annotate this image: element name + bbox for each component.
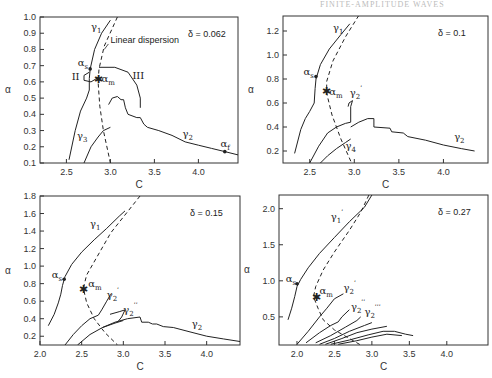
y-tick-label: 0.8 [266,74,279,84]
annotation-label: αm [329,86,343,100]
annotation-label: γ1ʹ [331,209,343,225]
y-tick-label: 0.8 [23,279,36,289]
annotation-label: γ3 [77,130,87,144]
y-axis-label: α [244,264,250,275]
marker-αs [88,67,92,71]
x-axis-label: C [380,361,387,372]
plot-frame [279,195,488,345]
annotation-label: γ2ʹʹ [123,302,137,318]
y-tick-label: 0.9 [23,28,36,38]
delta-label: δ = 0.062 [188,29,226,39]
annotation-label: αs [52,269,63,283]
curve-γ1 [69,20,110,160]
y-tick-label: 0.2 [266,146,279,156]
y-tick-label: 0.8 [23,44,36,54]
x-tick-label: 2.5 [303,167,316,177]
curve-linear-dispersion [314,195,369,345]
x-tick-label: 3.5 [159,349,172,359]
plot-frame [40,196,240,345]
x-tick-label: 3.0 [104,167,117,177]
y-tick-label: 0.2 [23,142,36,152]
delta-label: δ = 0.15 [190,208,223,218]
y-tick-label: 1.2 [266,26,279,36]
curve-γ2' [65,294,111,345]
y-tick-label: 1.0 [23,12,36,22]
curve-γ2'' [78,321,124,346]
annotation-label: αm [102,73,116,87]
x-tick-label: 4.0 [192,167,205,177]
y-tick-label: 0.6 [266,98,279,108]
chart-panel-bottom-left: 0.20.40.60.81.01.21.41.61.82.02.53.03.54… [5,191,240,372]
x-tick-label: 2.0 [34,349,47,359]
marker-αf [223,150,227,154]
x-tick-label: 3.0 [117,349,130,359]
annotation-label: γ1 [90,218,100,232]
y-tick-label: 1.6 [23,209,36,219]
curve-γ3 [84,127,110,163]
y-tick-label: 0.7 [23,61,36,71]
y-tick-label: 0.5 [23,93,36,103]
star-marker-icon: ✱ [79,283,88,295]
curve-γ2' [310,101,353,163]
curve-γ1 [48,211,125,326]
annotation-label: γ2ʹ [350,85,362,101]
annotation-label: γ1 [333,22,343,36]
annotation-label: γ2 [192,318,202,332]
x-tick-label: 4.0 [437,167,450,177]
delta-label: δ = 0.27 [438,207,471,217]
y-tick-label: 0.6 [23,296,36,306]
x-tick-label: 2.0 [291,349,304,359]
y-tick-label: 1.4 [23,226,36,236]
y-axis-label: α [5,84,11,95]
annotation-label: γ4 [345,140,356,154]
y-axis-label: α [248,84,254,95]
annotation-label: αm [88,278,102,292]
annotation-label: γ2ʹʹ [351,299,365,315]
chart-panel-top-left: 0.10.20.30.40.50.60.70.80.91.02.53.03.54… [5,12,238,190]
annotation-label: αf [220,138,231,152]
annotation-linear-dispersion: Linear dispersion [110,35,179,45]
x-tick-label: 3.5 [393,167,406,177]
annotation-label: αs [286,273,297,287]
x-tick-label: 3.5 [148,167,161,177]
figure: 0.10.20.30.40.50.60.70.80.91.02.53.03.54… [0,0,492,378]
x-tick-label: 4.0 [200,349,213,359]
x-tick-label: 2.5 [328,349,341,359]
y-tick-label: 1.2 [23,244,36,254]
annotation-region-II: II [72,71,80,82]
annotation-label: γ2ʹ [107,287,119,303]
y-tick-label: 0.3 [23,126,36,136]
annotation-label: γ2 [183,128,193,142]
y-tick-label: 1.0 [266,50,279,60]
annotation-label: αs [304,66,315,80]
x-axis-label: C [382,179,389,190]
y-tick-label: 0.4 [23,109,36,119]
x-tick-label: 3.0 [366,349,379,359]
delta-label: δ = 0.1 [438,28,466,38]
annotation-label: γ2ʹ [343,280,355,296]
marker-αs [62,277,66,281]
annotation-label: γ2ʹʹʹ [364,304,380,320]
x-axis-label: C [136,361,143,372]
y-tick-label: 0.2 [23,331,36,341]
x-tick-label: 3.5 [403,349,416,359]
y-tick-label: 1.0 [262,276,275,286]
x-tick-label: 3.0 [348,167,361,177]
chart-panel-top-right: 0.20.40.60.81.01.22.53.03.54.0Cαδ = 0.1✱… [248,15,488,190]
x-tick-label: 2.5 [60,167,73,177]
y-tick-label: 1.0 [23,261,36,271]
y-tick-label: 0.5 [262,312,275,322]
y-tick-label: 1.8 [23,191,36,201]
annotation-label: γ1 [91,21,101,35]
y-tick-label: 0.6 [23,77,36,87]
x-tick-label: 4.0 [441,349,454,359]
chart-panel-bottom-right: 0.51.01.52.02.02.53.03.54.0Cαδ = 0.27✱γ1… [244,195,488,372]
marker-αs [314,75,318,79]
y-tick-label: 0.1 [23,158,36,168]
x-tick-label: 2.5 [75,349,88,359]
annotation-label: αs [78,57,89,71]
annotation-label: γ2 [454,131,464,145]
y-tick-label: 0.4 [23,314,36,324]
curve-γ2 [109,97,238,155]
y-tick-label: 0.4 [266,122,279,132]
